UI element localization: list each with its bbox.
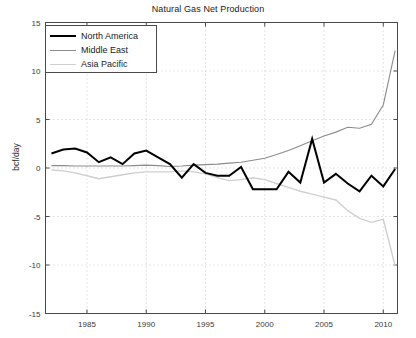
legend-item-asia-pacific[interactable]: Asia Pacific xyxy=(46,57,156,71)
x-tick-label: 1985 xyxy=(78,320,96,329)
chart-legend[interactable]: North America Middle East Asia Pacific xyxy=(45,25,157,73)
series-line-north-america xyxy=(51,139,395,191)
legend-swatch-middle-east xyxy=(50,50,76,51)
y-tick-label: 5 xyxy=(36,116,41,125)
y-tick-label: -5 xyxy=(33,213,41,222)
y-tick-label: -15 xyxy=(29,310,41,319)
legend-item-middle-east[interactable]: Middle East xyxy=(46,43,156,57)
series-line-asia-pacific xyxy=(51,170,395,266)
y-tick-label: -10 xyxy=(29,261,41,270)
legend-swatch-asia-pacific xyxy=(50,64,76,65)
x-tick-label: 1990 xyxy=(137,320,155,329)
y-tick-label: 0 xyxy=(36,164,41,173)
x-tick-label: 1995 xyxy=(197,320,215,329)
x-tick-label: 2005 xyxy=(315,320,333,329)
legend-swatch-north-america xyxy=(50,35,76,37)
chart-figure: Natural Gas Net Production bcf/day -15-1… xyxy=(0,0,416,338)
y-tick-label: 10 xyxy=(32,67,41,76)
data-series-layer xyxy=(51,51,395,266)
y-tick-labels: -15-10-5051015 xyxy=(29,19,41,319)
y-tick-label: 15 xyxy=(32,19,41,28)
x-tick-label: 2000 xyxy=(256,320,274,329)
legend-label-north-america: North America xyxy=(81,32,138,41)
x-tick-labels: 198519901995200020052010 xyxy=(78,320,393,329)
legend-label-middle-east: Middle East xyxy=(81,46,128,55)
legend-item-north-america[interactable]: North America xyxy=(46,29,156,43)
x-tick-label: 2010 xyxy=(374,320,392,329)
legend-label-asia-pacific: Asia Pacific xyxy=(81,60,128,69)
